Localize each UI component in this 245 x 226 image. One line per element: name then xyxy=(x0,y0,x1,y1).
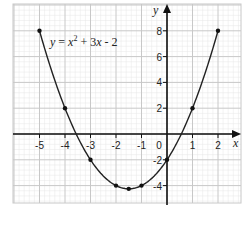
y-tick-label: 2 xyxy=(156,103,162,114)
x-axis-label: x xyxy=(232,136,239,150)
x-tick-label: -4 xyxy=(61,140,70,151)
grid-minor xyxy=(13,4,241,203)
equation-annotation: y = x2 + 3x - 2 xyxy=(49,34,118,49)
x-tick-label: 1 xyxy=(190,140,196,151)
grid-major xyxy=(13,4,241,203)
y-tick-label: 4 xyxy=(156,77,162,88)
y-tick-label: 8 xyxy=(156,26,162,37)
axes xyxy=(13,4,241,205)
y-axis-label: y xyxy=(152,3,159,17)
parabola-chart: -5-4-3-2-1012-4-22468 x y y = x2 + 3x - … xyxy=(0,0,245,226)
data-point xyxy=(63,106,67,110)
data-point xyxy=(190,106,194,110)
data-point xyxy=(127,187,131,191)
x-tick-label: -3 xyxy=(86,140,95,151)
data-point xyxy=(88,158,92,162)
y-tick-label: -4 xyxy=(153,181,162,192)
x-tick-label: -5 xyxy=(35,140,44,151)
data-point xyxy=(114,183,118,187)
x-tick-label: -1 xyxy=(137,140,146,151)
x-tick-label: 0 xyxy=(156,140,162,151)
y-tick-label: -2 xyxy=(153,155,162,166)
x-tick-label: -2 xyxy=(112,140,121,151)
data-point xyxy=(139,183,143,187)
x-tick-label: 2 xyxy=(215,140,221,151)
data-point xyxy=(216,29,220,33)
data-point xyxy=(37,29,41,33)
data-point xyxy=(165,158,169,162)
y-tick-label: 6 xyxy=(156,52,162,63)
